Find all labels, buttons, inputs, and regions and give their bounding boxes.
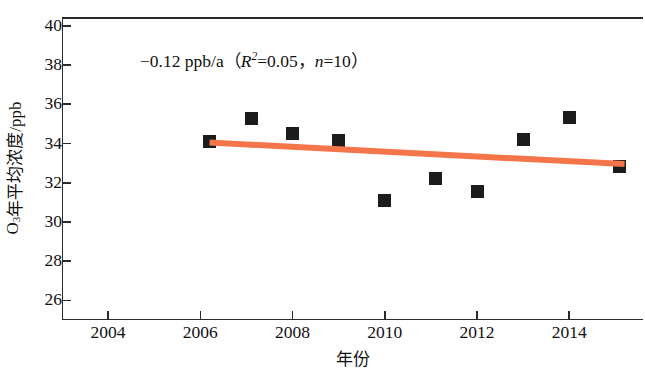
y-tick-mark (62, 143, 71, 145)
data-point-marker (471, 185, 484, 198)
plot-top-border (62, 17, 643, 19)
x-tick-mark (476, 311, 478, 320)
x-tick-mark (384, 311, 386, 320)
y-tick-label: 40 (22, 17, 62, 35)
annotation-r2-symbol: R (241, 51, 252, 71)
data-point-marker (517, 133, 530, 146)
y-tick-label: 32 (22, 174, 62, 192)
y-tick-label: 28 (22, 252, 62, 270)
y-axis-label-species: O (3, 222, 23, 234)
y-tick-mark (62, 64, 71, 66)
y-tick-label: 26 (22, 291, 62, 309)
annotation-n-value: =10 (323, 51, 350, 71)
x-tick-mark (568, 311, 570, 320)
data-point-marker (429, 172, 442, 185)
y-tick-mark (62, 25, 71, 27)
data-point-marker (203, 135, 216, 148)
y-tick-label: 38 (22, 56, 62, 74)
y-tick-mark (62, 300, 71, 302)
y-tick-mark (62, 182, 71, 184)
data-point-marker (563, 111, 576, 124)
annotation-open-paren: （ (224, 51, 241, 71)
x-tick-label: 2004 (78, 324, 138, 342)
y-tick-mark (62, 103, 71, 105)
y-axis-label-text: 年平均浓度/ppb (1, 102, 26, 217)
annotation-r2-value: =0.05 (257, 51, 298, 71)
annotation-slope: −0.12 ppb/a (140, 51, 224, 71)
x-tick-label: 2006 (170, 324, 230, 342)
y-tick-label: 36 (22, 95, 62, 113)
x-tick-label: 2010 (355, 324, 415, 342)
data-point-marker (245, 112, 258, 125)
annotation-comma: ， (298, 51, 315, 71)
y-tick-label: 30 (22, 213, 62, 231)
x-axis-label: 年份 (62, 345, 643, 370)
chart-figure: O3年平均浓度/ppb 2628303234363840 20042006200… (0, 0, 645, 372)
data-point-marker (286, 127, 299, 140)
x-tick-label: 2008 (263, 324, 323, 342)
data-point-marker (378, 194, 391, 207)
x-tick-mark (292, 311, 294, 320)
data-point-marker (332, 134, 345, 147)
annotation-close-paren: ） (351, 51, 368, 71)
trend-annotation: −0.12 ppb/a（R2=0.05，n=10） (140, 47, 368, 72)
x-tick-mark (200, 311, 202, 320)
y-tick-label: 34 (22, 135, 62, 153)
x-tick-label: 2012 (447, 324, 507, 342)
y-tick-mark (62, 221, 71, 223)
x-tick-label: 2014 (539, 324, 599, 342)
x-tick-mark (107, 311, 109, 320)
y-tick-mark (62, 260, 71, 262)
data-point-marker (613, 160, 626, 173)
y-axis-label-subscript: 3 (10, 217, 22, 223)
